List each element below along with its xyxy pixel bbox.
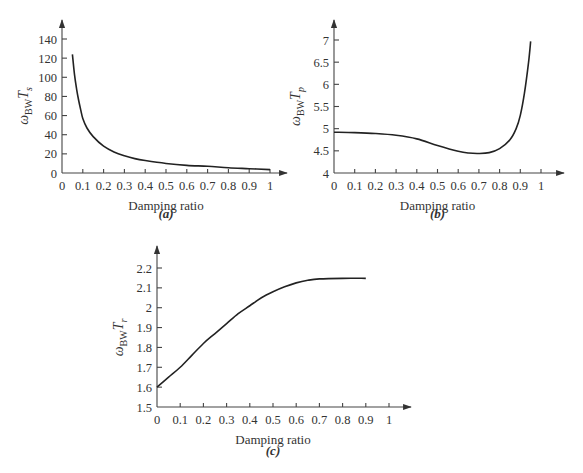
y-tick-label: 60 — [45, 109, 58, 123]
x-tick-label: 0.4 — [137, 179, 153, 193]
x-tick-label: 0.8 — [335, 413, 351, 427]
y-tick-label: 7 — [323, 34, 329, 48]
chart-c: 00.10.20.30.40.50.60.70.80.911.51.61.71.… — [111, 246, 411, 458]
panel-caption: (a) — [158, 206, 173, 221]
x-tick-label: 0.7 — [200, 179, 216, 193]
x-tick-label: 0.5 — [265, 413, 281, 427]
x-tick-label: 0.4 — [242, 413, 258, 427]
y-tick-label: 0 — [51, 167, 57, 181]
x-tick-label: 0.8 — [221, 179, 237, 193]
y-tick-label: 5 — [323, 122, 329, 136]
x-tick-label: 0.6 — [288, 413, 304, 427]
y-axis-title-omega: ω — [111, 346, 126, 356]
chart-a: 00.10.20.30.40.50.60.70.80.9102040608010… — [16, 20, 287, 221]
y-axis-title-sub1: BW — [118, 330, 129, 347]
y-tick-label: 1.9 — [136, 321, 152, 335]
y-axis-title-sub2: s — [23, 87, 34, 91]
y-tick-label: 20 — [45, 147, 58, 161]
x-tick-label: 0.8 — [492, 179, 508, 193]
x-tick-label: 0.3 — [219, 413, 235, 427]
panel-caption: (c) — [266, 443, 280, 458]
chart-b: 00.10.20.30.40.50.60.70.80.9144.555.566.… — [288, 20, 564, 221]
x-tick-label: 0.6 — [450, 179, 466, 193]
x-tick-label: 0.2 — [196, 413, 212, 427]
x-tick-label: 0.2 — [96, 179, 112, 193]
y-tick-label: 5.5 — [313, 100, 329, 114]
y-tick-label: 120 — [38, 52, 57, 66]
x-tick-label: 0.7 — [471, 179, 487, 193]
y-tick-label: 2.2 — [136, 262, 152, 276]
y-axis-title: ωBWTr — [111, 319, 129, 357]
y-axis-title-sub2: r — [118, 319, 129, 323]
x-tick-label: 0.9 — [358, 413, 374, 427]
x-tick-label: 0 — [154, 413, 160, 427]
y-tick-label: 2.1 — [136, 281, 152, 295]
y-tick-label: 80 — [45, 90, 58, 104]
y-tick-label: 100 — [38, 71, 57, 85]
y-axis-title-sub2: p — [295, 87, 306, 93]
x-tick-label: 0.1 — [172, 413, 188, 427]
y-tick-label: 1.5 — [136, 401, 152, 415]
series-line-b — [334, 41, 531, 153]
y-axis-title-omega: ω — [288, 116, 303, 126]
y-axis-title-sub1: BW — [23, 98, 34, 115]
y-tick-label: 40 — [45, 128, 58, 142]
x-tick-label: 0 — [59, 179, 65, 193]
y-tick-label: 140 — [38, 33, 57, 47]
y-tick-label: 6.5 — [313, 56, 329, 70]
x-tick-label: 0.2 — [368, 179, 384, 193]
x-tick-label: 0.6 — [179, 179, 195, 193]
y-axis-title-omega: ω — [16, 115, 31, 125]
x-tick-label: 1 — [538, 179, 544, 193]
x-tick-label: 0.1 — [75, 179, 91, 193]
figure: 00.10.20.30.40.50.60.70.80.9102040608010… — [0, 0, 583, 473]
x-tick-label: 0.4 — [409, 179, 425, 193]
y-tick-label: 4 — [323, 167, 330, 181]
panel-caption: (b) — [430, 206, 445, 221]
y-tick-label: 1.6 — [136, 381, 152, 395]
y-axis-title: ωBWTs — [16, 87, 34, 125]
y-tick-label: 1.7 — [136, 361, 152, 375]
y-axis-title: ωBWTp — [288, 87, 306, 126]
x-tick-label: 0.9 — [512, 179, 528, 193]
y-axis-title-sub1: BW — [295, 99, 306, 116]
x-tick-label: 0 — [331, 179, 337, 193]
x-tick-label: 0.5 — [158, 179, 174, 193]
x-tick-label: 1 — [267, 179, 273, 193]
x-tick-label: 0.7 — [312, 413, 328, 427]
series-line-a — [72, 54, 270, 169]
x-tick-label: 0.5 — [430, 179, 446, 193]
x-tick-label: 0.3 — [117, 179, 133, 193]
x-tick-label: 0.9 — [241, 179, 257, 193]
y-tick-label: 1.8 — [136, 341, 152, 355]
x-tick-label: 0.1 — [347, 179, 363, 193]
x-tick-label: 1 — [386, 413, 392, 427]
series-line-c — [157, 278, 366, 387]
y-tick-label: 2 — [146, 301, 152, 315]
y-tick-label: 4.5 — [313, 144, 329, 158]
y-tick-label: 6 — [323, 78, 329, 92]
x-tick-label: 0.3 — [388, 179, 404, 193]
